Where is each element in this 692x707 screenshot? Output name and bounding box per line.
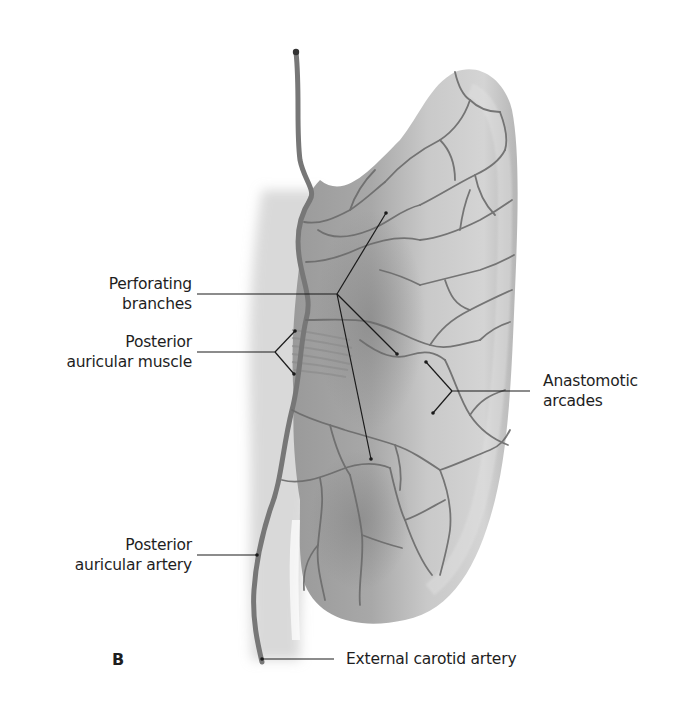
label-anastomotic-arcades: Anastomotic arcades: [543, 371, 638, 411]
label-anastomotic-arcades-line2: arcades: [543, 391, 638, 411]
label-posterior-auricular-muscle-line1: Posterior: [66, 332, 192, 352]
label-posterior-auricular-artery-line2: auricular artery: [75, 555, 192, 575]
label-posterior-auricular-muscle-line2: auricular muscle: [66, 352, 192, 372]
label-posterior-auricular-muscle: Posterior auricular muscle: [66, 332, 192, 372]
label-perforating-branches-line2: branches: [109, 294, 192, 314]
anatomical-figure: Perforating branches Posterior auricular…: [0, 0, 692, 707]
ear-auricle: [290, 69, 518, 640]
label-posterior-auricular-artery-line1: Posterior: [75, 535, 192, 555]
panel-letter: B: [112, 650, 124, 669]
label-external-carotid-artery-line1: External carotid artery: [346, 649, 516, 669]
label-external-carotid-artery: External carotid artery: [346, 649, 516, 669]
label-posterior-auricular-artery: Posterior auricular artery: [75, 535, 192, 575]
label-perforating-branches: Perforating branches: [109, 274, 192, 314]
label-perforating-branches-line1: Perforating: [109, 274, 192, 294]
label-anastomotic-arcades-line1: Anastomotic: [543, 371, 638, 391]
